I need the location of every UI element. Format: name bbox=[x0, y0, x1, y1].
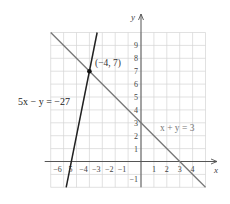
x-tick-label: −1 bbox=[118, 165, 127, 174]
axes bbox=[45, 14, 217, 187]
x-tick-label: 1 bbox=[152, 165, 156, 174]
intersection-label: (−4, 7) bbox=[95, 58, 121, 69]
tick-labels: −65−4−3−2−11234−1123456789 bbox=[53, 41, 194, 184]
equation-label-dark: 5x − y = −27 bbox=[18, 96, 70, 107]
y-tick-label: 9 bbox=[134, 41, 138, 50]
x-tick-label: 2 bbox=[165, 165, 169, 174]
x-axis-label: x bbox=[213, 165, 218, 175]
intersection-point bbox=[87, 69, 92, 74]
y-tick-label: 6 bbox=[134, 80, 138, 89]
x-tick-label: −4 bbox=[79, 165, 88, 174]
y-tick-label: 8 bbox=[134, 54, 138, 63]
y-tick-label: 1 bbox=[134, 145, 138, 154]
equation-label-gray: x + y = 3 bbox=[160, 123, 195, 133]
x-tick-label: 3 bbox=[178, 165, 182, 174]
graph-canvas: −65−4−3−2−11234−1123456789 x y 5x − y = … bbox=[0, 0, 230, 204]
y-tick-label: 4 bbox=[134, 106, 138, 115]
y-tick-label: 7 bbox=[134, 67, 138, 76]
y-tick-label: −1 bbox=[129, 175, 138, 184]
y-tick-label: 5 bbox=[134, 93, 138, 102]
y-tick-label: 2 bbox=[134, 132, 138, 141]
x-tick-label: −2 bbox=[105, 165, 114, 174]
x-tick-label: −3 bbox=[92, 165, 101, 174]
annotations bbox=[87, 69, 92, 74]
y-axis-label: y bbox=[130, 12, 135, 22]
x-tick-label: −6 bbox=[53, 165, 62, 174]
y-tick-label: 3 bbox=[134, 119, 138, 128]
